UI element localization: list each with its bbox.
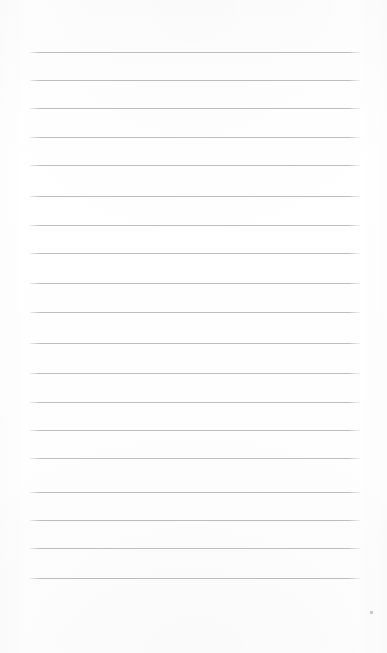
rule-line — [30, 52, 360, 53]
rule-line — [30, 492, 360, 493]
rule-line — [30, 430, 360, 431]
rule-line — [30, 458, 360, 459]
rule-line — [30, 283, 360, 284]
rule-line — [30, 108, 360, 109]
rule-line — [30, 548, 360, 549]
rule-line — [30, 196, 360, 197]
scan-speck — [370, 611, 373, 614]
rule-line — [30, 312, 360, 313]
rule-line — [30, 225, 360, 226]
rule-line-group — [0, 0, 387, 653]
rule-line — [30, 578, 360, 579]
rule-line — [30, 253, 360, 254]
rule-line — [30, 137, 360, 138]
rule-line — [30, 165, 360, 166]
rule-line — [30, 80, 360, 81]
lined-paper-page — [0, 0, 387, 653]
rule-line — [30, 402, 360, 403]
rule-line — [30, 373, 360, 374]
rule-line — [30, 343, 360, 344]
rule-line — [30, 520, 360, 521]
